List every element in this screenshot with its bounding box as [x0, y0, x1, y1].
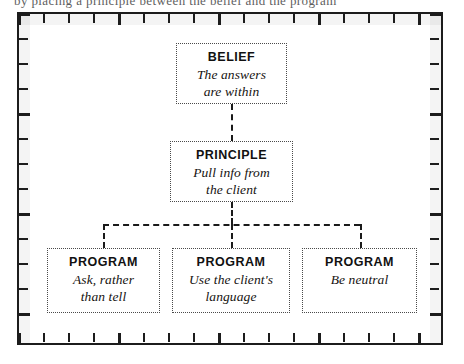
cropped-caption-sliver: by placing a principle between the belie… — [0, 0, 464, 9]
node-program-1-line-1: Ask, rather — [48, 272, 159, 289]
node-program-1-body: Ask, rather than tell — [48, 272, 159, 305]
node-principle-body: Pull info from the client — [171, 165, 292, 198]
node-principle[interactable]: PRINCIPLE Pull info from the client — [170, 141, 293, 202]
node-belief-line-2: are within — [177, 84, 286, 101]
node-program-2-title: PROGRAM — [173, 255, 289, 270]
node-program-3-title: PROGRAM — [303, 255, 416, 270]
diagram-canvas: BELIEF The answers are within PRINCIPLE … — [17, 12, 443, 345]
connector-principle-stem — [231, 202, 233, 224]
node-belief-title: BELIEF — [177, 50, 286, 65]
node-belief-body: The answers are within — [177, 67, 286, 100]
node-program-3-body: Be neutral — [303, 272, 416, 289]
node-program-2-line-2: language — [173, 289, 289, 306]
node-program-1[interactable]: PROGRAM Ask, rather than tell — [47, 248, 160, 313]
node-principle-title: PRINCIPLE — [171, 148, 292, 163]
node-program-3[interactable]: PROGRAM Be neutral — [302, 248, 417, 313]
connector-bus-to-program-1 — [103, 224, 105, 248]
node-program-1-title: PROGRAM — [48, 255, 159, 270]
node-belief[interactable]: BELIEF The answers are within — [176, 43, 287, 104]
node-principle-line-2: the client — [171, 182, 292, 199]
connector-belief-to-principle — [231, 104, 233, 141]
cropped-caption-text: by placing a principle between the belie… — [14, 0, 337, 7]
connector-bus-to-program-3 — [360, 224, 362, 248]
node-principle-line-1: Pull info from — [171, 165, 292, 182]
node-program-2-line-1: Use the client's — [173, 272, 289, 289]
connector-bus-to-program-2 — [231, 224, 233, 248]
node-program-2-body: Use the client's language — [173, 272, 289, 305]
node-program-3-line-1: Be neutral — [303, 272, 416, 289]
node-belief-line-1: The answers — [177, 67, 286, 84]
node-program-1-line-2: than tell — [48, 289, 159, 306]
node-program-2[interactable]: PROGRAM Use the client's language — [172, 248, 290, 313]
